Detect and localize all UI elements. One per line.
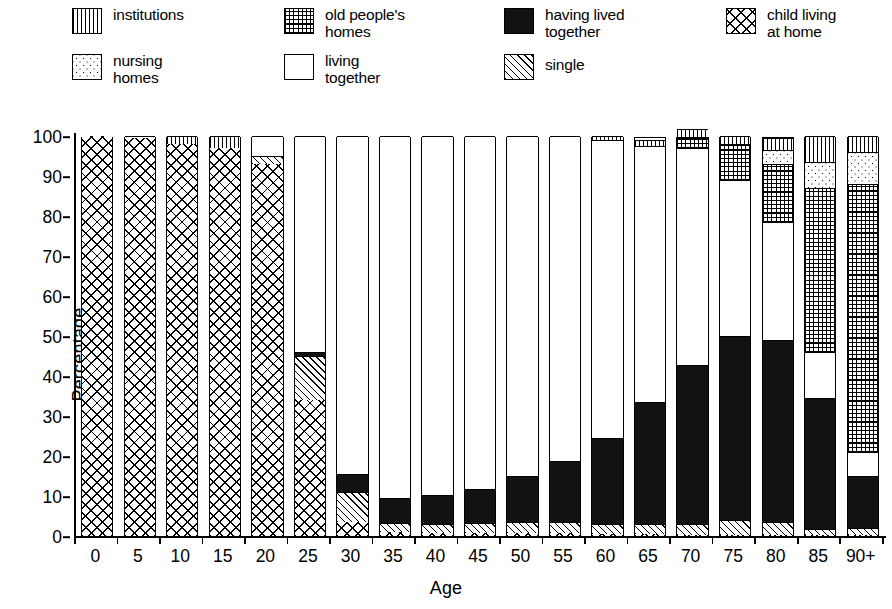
y-axis-tick-mark (63, 456, 70, 458)
x-axis-tick-label: 45 (468, 546, 487, 567)
bar-segment-childhome (252, 164, 282, 536)
bar-segment-single (295, 356, 325, 400)
bar-segment-oldpeople (720, 145, 750, 180)
chart-figure: institutions old people's homes having l… (0, 0, 892, 609)
x-axis-tick-marks (74, 536, 886, 546)
bar-segment-havinglived (550, 461, 580, 522)
x-axis-tick-mark (754, 536, 756, 544)
bar-segment-institutions (592, 136, 622, 140)
x-axis-tick-label: 50 (511, 546, 530, 567)
legend-label-having-lived-together: having lived together (545, 6, 624, 40)
bar-segment-single (380, 523, 410, 532)
x-axis-tick-mark (839, 536, 841, 544)
bar-segment-institutions (848, 136, 878, 152)
bar-25 (294, 137, 326, 537)
y-axis-tick-label: 20 (43, 447, 62, 468)
bar-segment-childhome (167, 144, 197, 536)
x-axis-tick-label: 15 (213, 546, 232, 567)
bar-10 (166, 137, 198, 537)
bar-80 (762, 137, 794, 537)
plot-area: Percentage 0102030405060708090100 051015… (0, 108, 892, 609)
legend-item-nursing-homes: nursing homes (72, 52, 284, 86)
legend-swatch-child-living-at-home-icon (726, 8, 756, 34)
x-axis-tick-label: 55 (553, 546, 572, 567)
legend-row-1: institutions old people's homes having l… (72, 6, 884, 52)
bar-segment-livingtogether (550, 136, 580, 461)
y-axis-tick-label: 10 (43, 487, 62, 508)
bar-segment-single (677, 524, 707, 535)
bar-segment-havinglived (337, 474, 367, 492)
y-axis-tick-label: 30 (43, 407, 62, 428)
bar-segment-childhome (295, 400, 325, 536)
bar-90+ (847, 137, 879, 537)
y-axis-tick-mark (63, 496, 70, 498)
bar-segment-childhome (210, 148, 240, 536)
bar-segment-single (465, 523, 495, 533)
bar-segment-institutions (635, 140, 665, 146)
bar-segment-single (848, 528, 878, 535)
y-axis-tick-mark (63, 136, 70, 138)
x-axis-title: Age (0, 578, 892, 599)
legend-swatch-institutions-icon (72, 8, 102, 34)
bar-30 (336, 137, 368, 537)
legend-label-nursing-homes: nursing homes (113, 52, 162, 86)
y-axis-tick-label: 70 (43, 247, 62, 268)
legend-item-institutions: institutions (72, 6, 284, 34)
x-axis-tick-label: 30 (341, 546, 360, 567)
bar-segment-institutions (167, 136, 197, 144)
bar-segment-havinglived (295, 352, 325, 356)
legend-swatch-single-icon (504, 54, 534, 80)
bar-segment-institutions (210, 136, 240, 148)
bar-segment-single (763, 522, 793, 535)
legend-label-child-living-at-home: child living at home (767, 6, 836, 40)
bar-segment-livingtogether (380, 136, 410, 498)
bar-segment-single (592, 524, 622, 534)
x-axis-tick-mark (287, 536, 289, 544)
y-axis-tick-mark (63, 256, 70, 258)
legend-label-living-together: living together (325, 52, 380, 86)
bar-segment-institutions (805, 136, 835, 162)
legend-row-2: nursing homes living together single (72, 52, 884, 98)
bar-segment-single (805, 529, 835, 535)
legend-label-institutions: institutions (113, 6, 184, 23)
y-axis-tick-label: 80 (43, 207, 62, 228)
bar-segment-havinglived (592, 438, 622, 524)
bar-segment-single (252, 156, 282, 164)
y-axis-tick-label: 90 (43, 167, 62, 188)
x-axis-tick-mark (202, 536, 204, 544)
bar-segment-havinglived (763, 340, 793, 522)
x-axis-tick-mark (372, 536, 374, 544)
y-axis-tick-labels: 0102030405060708090100 (26, 108, 70, 538)
y-axis-tick-mark (63, 176, 70, 178)
bar-segment-havinglived (507, 476, 537, 522)
bar-segment-livingtogether (763, 222, 793, 340)
bar-segment-single (507, 522, 537, 532)
bar-segment-nursing (763, 150, 793, 164)
x-axis-tick-mark (457, 536, 459, 544)
bar-segment-havinglived (677, 365, 707, 524)
x-axis-tick-mark (414, 536, 416, 544)
bar-segment-livingtogether (295, 136, 325, 352)
x-axis-tick-mark (244, 536, 246, 544)
bar-55 (549, 137, 581, 537)
y-axis-tick-mark (63, 536, 70, 538)
bar-segment-havinglived (465, 489, 495, 523)
legend-swatch-old-peoples-homes-icon (284, 8, 314, 34)
bar-segment-single (337, 492, 367, 522)
x-axis-tick-mark (542, 536, 544, 544)
bar-45 (464, 137, 496, 537)
x-axis-tick-label: 25 (298, 546, 317, 567)
bar-segment-havinglived (848, 476, 878, 528)
bar-segment-livingtogether (805, 352, 835, 398)
x-axis-tick-label: 60 (596, 546, 615, 567)
bar-segment-childhome (337, 522, 367, 536)
y-axis-tick-label: 0 (52, 527, 62, 548)
bar-segment-livingtogether (592, 140, 622, 438)
x-axis-tick-label: 0 (90, 546, 100, 567)
bar-segment-livingtogether (507, 136, 537, 476)
bar-segment-livingtogether (677, 148, 707, 365)
bar-segment-havinglived (380, 498, 410, 523)
bar-segment-single (720, 520, 750, 535)
legend-item-child-living-at-home: child living at home (726, 6, 836, 40)
x-axis-tick-label: 75 (723, 546, 742, 567)
